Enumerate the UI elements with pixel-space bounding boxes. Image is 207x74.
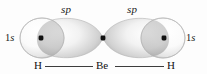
bond-line-left xyxy=(45,66,93,67)
beryllium-nucleus-icon xyxy=(101,36,106,41)
orbital-overlap-figure: sp sp 1s 1s H Be H xyxy=(0,0,207,74)
one-s-label-right: 1s xyxy=(186,33,195,44)
sp-label-left: sp xyxy=(61,4,71,15)
one-s-label-left-orbital: s xyxy=(10,32,14,43)
formula-hydrogen-left: H xyxy=(34,60,42,71)
formula-beryllium: Be xyxy=(96,60,108,71)
formula-hydrogen-right: H xyxy=(167,60,175,71)
sp-label-right: sp xyxy=(127,4,137,15)
one-s-label-left: 1s xyxy=(5,33,14,44)
hydrogen-left-nucleus-icon xyxy=(39,36,44,41)
one-s-label-right-orbital: s xyxy=(191,32,195,43)
bond-line-right xyxy=(115,66,164,67)
hydrogen-right-nucleus-icon xyxy=(162,36,167,41)
